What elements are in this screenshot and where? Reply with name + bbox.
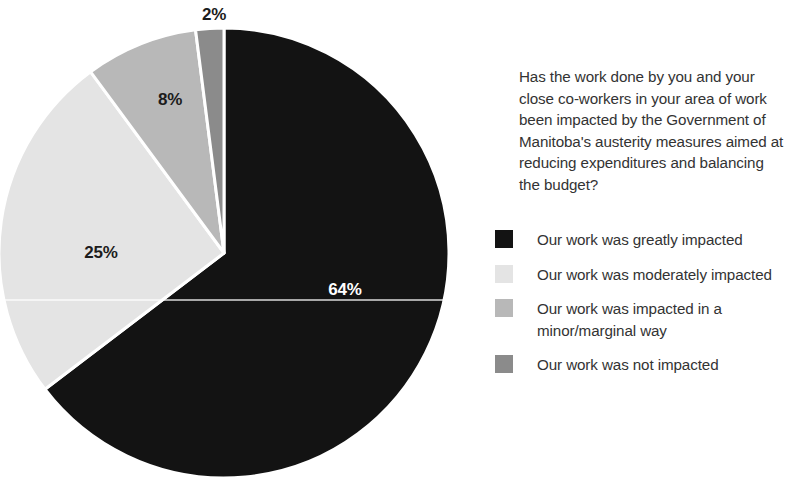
survey-question-text: Has the work done by you and your close … bbox=[519, 66, 787, 195]
pie-slice-value-label: 64% bbox=[328, 280, 362, 299]
pie-slice-value-label: 2% bbox=[202, 5, 226, 24]
chart-legend: Our work was greatly impactedOur work wa… bbox=[495, 229, 787, 389]
legend-item-label: Our work was greatly impacted bbox=[537, 229, 743, 251]
pie-chart-panel: 64%25%8%2% bbox=[0, 0, 470, 486]
legend-item[interactable]: Our work was impacted in a minor/margina… bbox=[495, 298, 787, 341]
legend-item-label: Our work was not impacted bbox=[537, 354, 719, 376]
legend-color-swatch bbox=[495, 355, 513, 373]
legend-item-label: Our work was impacted in a minor/margina… bbox=[537, 298, 787, 341]
chart-page: 64%25%8%2% Has the work done by you and … bbox=[0, 0, 788, 486]
legend-item[interactable]: Our work was moderately impacted bbox=[495, 264, 787, 286]
legend-color-swatch bbox=[495, 299, 513, 317]
legend-item-label: Our work was moderately impacted bbox=[537, 264, 772, 286]
pie-chart-svg: 64%25%8%2% bbox=[0, 0, 470, 486]
legend-color-swatch bbox=[495, 265, 513, 283]
pie-slice-value-label: 8% bbox=[158, 90, 182, 109]
legend-item[interactable]: Our work was greatly impacted bbox=[495, 229, 787, 251]
pie-slice-value-label: 25% bbox=[84, 243, 118, 262]
legend-item[interactable]: Our work was not impacted bbox=[495, 354, 787, 376]
pie-slices-group bbox=[0, 28, 449, 478]
legend-color-swatch bbox=[495, 230, 513, 248]
chart-side-panel: Has the work done by you and your close … bbox=[519, 0, 788, 486]
